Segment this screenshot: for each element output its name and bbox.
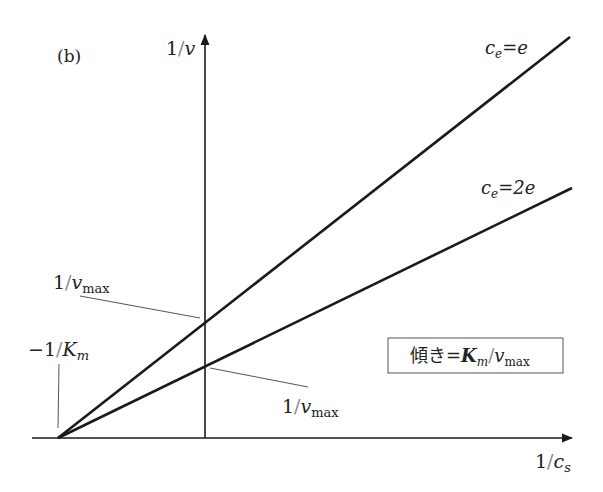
line-label-ce-2e: ce=2e <box>481 177 535 201</box>
line-label-ce-e: ce=e <box>485 37 528 61</box>
y-axis-label: 1/v <box>166 37 196 59</box>
upper-intercept-label: 1/vmax <box>53 271 110 296</box>
leader-upper-intercept <box>80 296 200 318</box>
leader-lower-intercept <box>210 368 308 387</box>
line-ce-e <box>58 37 570 438</box>
lower-intercept-label: 1/vmax <box>282 395 339 420</box>
lineweaver-burk-diagram: (b) 1/v 1/cs ce=e ce=2e 1/vmax 1/vmax −1… <box>0 0 603 492</box>
panel-label: (b) <box>57 46 81 66</box>
leader-x-intercept <box>58 364 59 428</box>
slope-box-text: 傾き=Km/vmax <box>410 345 530 369</box>
line-ce-2e <box>58 188 572 438</box>
x-intercept-label: −1/Km <box>28 338 89 363</box>
x-axis-label: 1/cs <box>535 450 571 475</box>
